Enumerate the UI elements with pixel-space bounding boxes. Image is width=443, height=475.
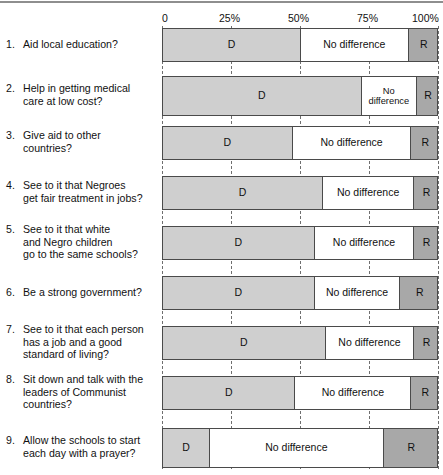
row-question-text: Help in getting medicalcare at low cost? [23, 82, 156, 107]
bar-segment-republican: R [414, 327, 438, 359]
bar-segment-democrat: D [163, 29, 301, 61]
bar-segment-no-difference: No difference [323, 177, 414, 209]
stacked-bar: DNo differenceR [162, 126, 438, 160]
row-question-text: Allow the schools to starteach day with … [23, 434, 156, 459]
bar-segment-republican: R [384, 429, 438, 467]
row-question-text: See to it that each personhas a job and … [23, 323, 156, 361]
row-number: 7. [6, 323, 23, 336]
stacked-bar: DNo differenceR [162, 326, 438, 360]
stacked-bar: DNo differenceR [162, 276, 438, 310]
stacked-bar: DNo differenceR [162, 176, 438, 210]
stacked-bar: DNo differenceR [162, 428, 438, 468]
row-label: 3.Give aid to othercountries? [6, 129, 156, 154]
bar-segment-republican: R [400, 277, 438, 309]
x-axis-tick-labels: 025%50%75%100% [162, 12, 438, 26]
row-number: 6. [6, 286, 23, 299]
row-label: 9.Allow the schools to starteach day wit… [6, 434, 156, 459]
stacked-bar: DNo differenceR [162, 28, 438, 62]
row-label: 6.Be a strong government? [6, 286, 156, 299]
stacked-bar: DNodifferenceR [162, 76, 438, 116]
stacked-bar: DNo differenceR [162, 376, 438, 410]
bar-segment-no-difference: No difference [315, 227, 414, 259]
row-question-text: See to it that whiteand Negro childrengo… [23, 223, 156, 261]
bar-segment-democrat: D [163, 227, 315, 259]
row-question-text: Give aid to othercountries? [23, 129, 156, 154]
bar-segment-republican: R [409, 29, 438, 61]
x-axis-tick-100: 100% [412, 12, 439, 24]
bar-segment-republican: R [414, 227, 438, 259]
row-number: 4. [6, 179, 23, 192]
row-question-text: Sit down and talk with theleaders of Com… [23, 373, 156, 411]
row-question-text: Aid local education? [23, 38, 156, 51]
bar-segment-republican: R [414, 177, 438, 209]
chart-container: 025%50%75%100% 1.Aid local education?DNo… [0, 0, 443, 475]
row-number: 9. [6, 434, 23, 447]
row-label: 1.Aid local education? [6, 38, 156, 51]
row-number: 1. [6, 38, 23, 51]
bar-segment-no-difference: No difference [301, 29, 409, 61]
row-label: 2.Help in getting medicalcare at low cos… [6, 82, 156, 107]
bar-segment-no-difference: No difference [295, 377, 411, 409]
row-label: 7.See to it that each personhas a job an… [6, 323, 156, 361]
bar-segment-no-difference: No difference [293, 127, 412, 159]
row-label: 4.See to it that Negroesget fair treatme… [6, 179, 156, 204]
x-axis-tick-25: 25% [219, 12, 240, 24]
bar-segment-democrat: D [163, 377, 295, 409]
bar-segment-republican: R [411, 127, 438, 159]
row-number: 5. [6, 223, 23, 236]
bar-segment-democrat: D [163, 327, 326, 359]
x-axis-tick-75: 75% [357, 12, 378, 24]
bar-segment-republican: R [411, 377, 438, 409]
bar-segment-democrat: D [163, 177, 323, 209]
row-number: 2. [6, 82, 23, 95]
row-label: 5.See to it that whiteand Negro children… [6, 223, 156, 261]
bar-segment-democrat: D [163, 127, 293, 159]
x-axis-tick-0: 0 [162, 12, 168, 24]
bar-segment-no-difference: No difference [326, 327, 414, 359]
row-number: 8. [6, 373, 23, 386]
row-question-text: Be a strong government? [23, 286, 156, 299]
row-question-text: See to it that Negroesget fair treatment… [23, 179, 156, 204]
bar-segment-no-difference: Nodifference [362, 77, 417, 115]
gridline-100 [438, 26, 439, 469]
bar-segment-no-difference: No difference [315, 277, 401, 309]
row-number: 3. [6, 129, 23, 142]
stacked-bar: DNo differenceR [162, 226, 438, 260]
bar-segment-democrat: D [163, 277, 315, 309]
bar-segment-republican: R [417, 77, 438, 115]
bar-segment-no-difference: No difference [210, 429, 384, 467]
bar-segment-democrat: D [163, 429, 210, 467]
x-axis-tick-50: 50% [288, 12, 309, 24]
row-label: 8.Sit down and talk with theleaders of C… [6, 373, 156, 411]
bar-segment-democrat: D [163, 77, 362, 115]
top-divider-rule [0, 1, 443, 3]
